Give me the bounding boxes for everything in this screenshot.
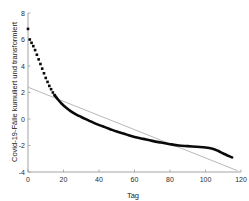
data-point-marker (27, 28, 30, 31)
x-tick-label: 80 (166, 176, 174, 183)
x-tick-label: 20 (60, 176, 68, 183)
x-tick-label: 40 (95, 176, 103, 183)
y-axis-title: Covid-19-Fälle kumuliert und transformie… (10, 21, 19, 162)
data-point-marker (30, 42, 33, 45)
y-tick-label: 2 (21, 89, 25, 96)
series-observed-solid (55, 95, 233, 157)
y-tick-label: 6 (21, 36, 25, 43)
data-point-marker (52, 91, 55, 94)
y-tick-label: -4 (19, 169, 25, 176)
x-tick-label: 60 (131, 176, 139, 183)
data-point-marker (39, 63, 42, 66)
series-observed-markers (27, 28, 56, 97)
x-tick-label: 120 (235, 176, 247, 183)
chart-plot: 020406080100120 -4-202468 Tag Covid-19-F… (0, 0, 249, 201)
data-point-marker (32, 45, 35, 48)
data-point-marker (50, 88, 53, 91)
data-point-marker (36, 53, 39, 56)
data-point-marker (48, 85, 51, 88)
data-point-marker (37, 58, 40, 61)
data-point-marker (44, 77, 47, 80)
data-point-marker (41, 67, 44, 70)
data-point-marker (43, 72, 46, 75)
y-tick-label: 8 (21, 10, 25, 17)
x-tick-label: 100 (200, 176, 212, 183)
data-point-marker (46, 81, 49, 84)
y-axis-ticks: -4-202468 (19, 10, 31, 176)
data-point-marker (53, 94, 56, 97)
x-axis-ticks: 020406080100120 (26, 170, 247, 184)
y-tick-label: -2 (19, 142, 25, 149)
x-tick-label: 0 (26, 176, 30, 183)
y-tick-label: 4 (21, 63, 25, 70)
observed-curve (55, 95, 233, 157)
data-point-marker (34, 49, 37, 52)
chart-container: 020406080100120 -4-202468 Tag Covid-19-F… (0, 0, 249, 201)
data-point-marker (28, 38, 31, 41)
x-axis-title: Tag (127, 191, 139, 200)
y-tick-label: 0 (21, 116, 25, 123)
